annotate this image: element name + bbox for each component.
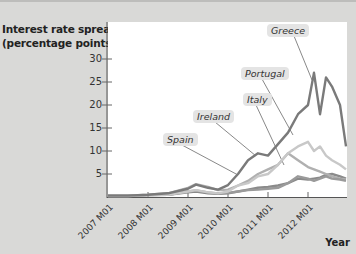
callout-italy: Italy	[243, 93, 272, 106]
y-tick-25: 25	[78, 76, 102, 87]
callout-ireland: Ireland	[193, 110, 234, 123]
x-axis-title: Year	[325, 237, 350, 248]
callout-portugal: Portugal	[241, 67, 289, 80]
y-tick-20: 20	[78, 99, 102, 110]
y-tick-10: 10	[78, 145, 102, 156]
series-line-ireland	[108, 153, 346, 195]
series-line-greece	[108, 73, 346, 196]
y-tick-30: 30	[78, 53, 102, 64]
callout-leader-line	[215, 122, 256, 156]
callout-leader-line	[182, 145, 238, 175]
callout-spain: Spain	[163, 133, 198, 146]
callout-greece: Greece	[267, 24, 309, 37]
callout-leader-line	[294, 36, 312, 80]
y-tick-15: 15	[78, 122, 102, 133]
y-tick-5: 5	[78, 168, 102, 179]
callout-leader-line	[262, 79, 293, 135]
callout-leader-line	[256, 105, 284, 165]
